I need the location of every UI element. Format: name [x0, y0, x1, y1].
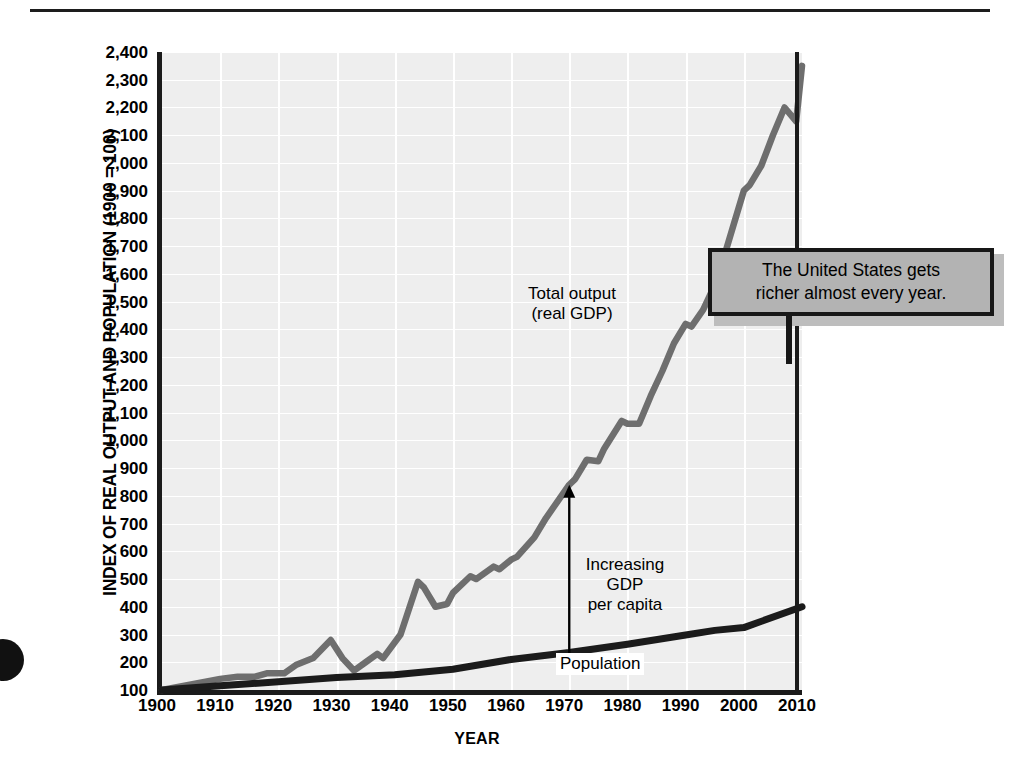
y-tick-label: 1,800 [60, 210, 148, 227]
callout-box: The United States gets richer almost eve… [708, 248, 994, 316]
plot-right-border [795, 52, 799, 695]
y-tick-label: 1,300 [60, 349, 148, 366]
y-tick-label: 1,600 [60, 265, 148, 282]
figure-container: INDEX OF REAL OUTPUT AND POPULATION (190… [0, 0, 1020, 782]
plot-inner [162, 52, 802, 690]
data-series-svg [162, 52, 802, 690]
annotation-population: Population [556, 653, 644, 675]
decorative-corner-dot [0, 639, 24, 681]
annotation-total-output: Total output (real GDP) [487, 284, 657, 324]
x-axis-tick-labels: 1900191019201930194019501960197019801990… [157, 697, 797, 723]
plot-area [157, 52, 802, 695]
y-tick-label: 600 [60, 543, 148, 560]
y-tick-label: 2,300 [60, 71, 148, 88]
y-tick-label: 700 [60, 515, 148, 532]
y-tick-label: 1,500 [60, 293, 148, 310]
y-tick-label: 1,200 [60, 376, 148, 393]
y-tick-label: 2,100 [60, 127, 148, 144]
y-tick-label: 1,000 [60, 432, 148, 449]
y-tick-label: 2,000 [60, 154, 148, 171]
y-tick-label: 1,100 [60, 404, 148, 421]
callout-leader-line [786, 312, 792, 364]
y-tick-label: 100 [60, 682, 148, 699]
y-tick-label: 1,400 [60, 321, 148, 338]
series-line [162, 66, 802, 690]
y-tick-label: 1,700 [60, 238, 148, 255]
annotation-increasing-gdp-per-capita: Increasing GDP per capita [560, 555, 690, 615]
y-axis-tick-labels: 1002003004005006007008009001,0001,1001,2… [60, 52, 148, 690]
y-tick-label: 400 [60, 598, 148, 615]
y-tick-label: 200 [60, 654, 148, 671]
x-axis-title: YEAR [157, 730, 797, 748]
y-tick-label: 300 [60, 626, 148, 643]
y-tick-label: 2,400 [60, 44, 148, 61]
y-tick-label: 1,900 [60, 182, 148, 199]
y-tick-label: 2,200 [60, 99, 148, 116]
y-tick-label: 800 [60, 487, 148, 504]
y-tick-label: 900 [60, 460, 148, 477]
gridline-vertical [802, 52, 804, 690]
y-tick-label: 500 [60, 571, 148, 588]
x-tick-label: 2010 [752, 697, 842, 714]
top-divider-rule [30, 9, 990, 12]
